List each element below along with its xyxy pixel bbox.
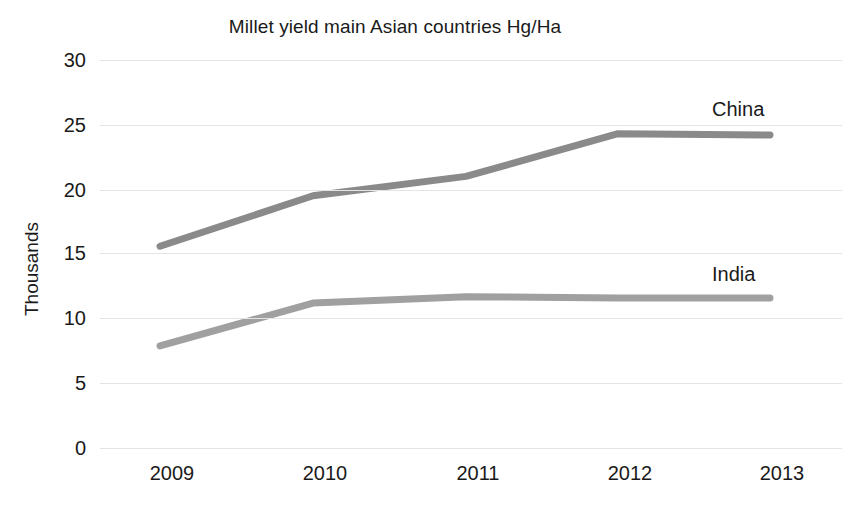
gridline (100, 190, 842, 191)
series-label-china: China (712, 98, 764, 121)
y-tick-label: 15 (38, 243, 86, 263)
gridline (100, 125, 842, 126)
x-tick-label: 2011 (433, 462, 523, 485)
y-tick-label: 0 (38, 438, 86, 458)
y-tick-label: 10 (38, 308, 86, 328)
gridline (100, 253, 842, 254)
y-axis-title: Thousands (21, 159, 43, 379)
gridline (100, 60, 842, 61)
y-tick-label: 25 (38, 115, 86, 135)
gridline (100, 448, 842, 449)
series-label-india: India (712, 263, 755, 286)
y-tick-label: 20 (38, 180, 86, 200)
y-tick-label: 5 (38, 373, 86, 393)
x-tick-label: 2010 (280, 462, 370, 485)
chart-container: Millet yield main Asian countries Hg/Ha … (0, 0, 850, 512)
x-tick-label: 2012 (585, 462, 675, 485)
gridline (100, 318, 842, 319)
x-tick-label: 2013 (737, 462, 827, 485)
x-tick-label: 2009 (127, 462, 217, 485)
y-tick-label: 30 (38, 50, 86, 70)
gridline (100, 383, 842, 384)
chart-title: Millet yield main Asian countries Hg/Ha (0, 16, 790, 38)
line-series-india (160, 297, 770, 346)
